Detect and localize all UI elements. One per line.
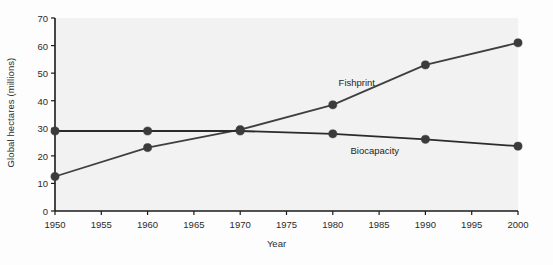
data-point-fishprint (51, 172, 59, 180)
data-point-biocapacity (514, 142, 522, 150)
data-point-biocapacity (236, 127, 244, 135)
data-point-fishprint (514, 39, 522, 47)
data-point-fishprint (329, 101, 337, 109)
data-point-fishprint (421, 61, 429, 69)
data-point-fishprint (144, 144, 152, 152)
data-point-biocapacity (421, 135, 429, 143)
data-point-biocapacity (329, 130, 337, 138)
plot-area (0, 0, 553, 265)
data-point-biocapacity (144, 127, 152, 135)
series-label-biocapacity: Biocapacity (350, 145, 399, 156)
chart-figure: Global hectares (millions) 0102030405060… (0, 0, 553, 265)
series-label-fishprint: Fishprint (339, 77, 375, 88)
data-point-biocapacity (51, 127, 59, 135)
plot-background (55, 18, 518, 211)
